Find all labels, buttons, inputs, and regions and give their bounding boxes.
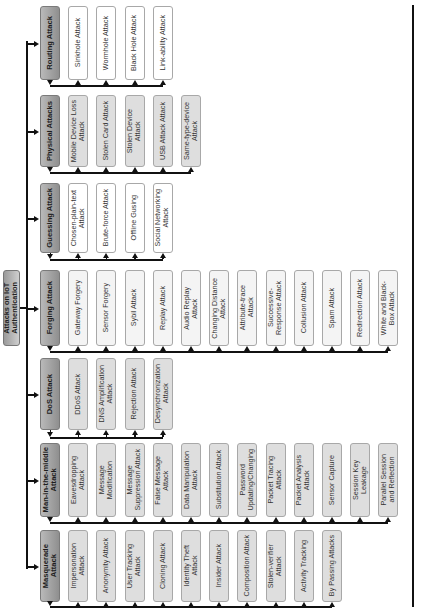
arrow-up-icon xyxy=(329,602,335,607)
arrow-up-icon xyxy=(273,346,279,351)
attack-node: User Tracking Attack xyxy=(125,530,145,602)
category-header: Physical Attacks xyxy=(40,95,60,167)
arrow-up-icon xyxy=(75,253,81,258)
attack-node: Black Hole Attack xyxy=(125,6,145,80)
attack-node-label: Brute-force Attack xyxy=(102,189,110,246)
attack-node-label: DNS Amplification Attack xyxy=(98,365,115,423)
attack-node-label: Anonymity Attack xyxy=(102,538,110,593)
arrow-up-icon xyxy=(132,602,138,607)
attack-node: DNS Amplification Attack xyxy=(96,358,116,430)
arrow-up-icon xyxy=(385,517,391,522)
arrow-right-icon xyxy=(34,129,39,135)
attack-node: DDoS Attack xyxy=(68,358,88,430)
attack-node: Composition Attack xyxy=(237,530,257,602)
attack-node: By Passing Attacks xyxy=(322,530,342,602)
category-header: Forging Attack xyxy=(40,270,60,346)
attack-node-label: Stolen Card Attack xyxy=(102,101,110,161)
attack-node-label: Packet Tracing Attack xyxy=(267,456,284,504)
arrow-up-icon xyxy=(273,517,279,522)
attack-node-label: Session Key Leakage xyxy=(352,460,369,500)
arrow-right-icon xyxy=(34,478,39,484)
attack-node: Message Suppression Attack xyxy=(125,443,145,517)
arrow-up-icon xyxy=(244,602,250,607)
attack-node-label: Social Networking Attack xyxy=(154,189,171,247)
arrow-up-icon xyxy=(132,346,138,351)
arrow-up-icon xyxy=(188,167,194,172)
attack-node: Anonymity Attack xyxy=(96,530,116,602)
arrow-up-icon xyxy=(75,167,81,172)
arrow-up-icon xyxy=(103,602,109,607)
arrow-up-icon xyxy=(357,346,363,351)
bus-line xyxy=(50,172,191,174)
category-header-label: Masquerade Attack xyxy=(42,544,59,588)
arrow-up-icon xyxy=(103,430,109,435)
attack-node: Data Manipulation Attack xyxy=(181,443,201,517)
attack-node: Successive- Response Attack xyxy=(266,270,286,346)
category-header-label: Physical Attacks xyxy=(46,101,54,161)
attack-node: Audio Replay Attack xyxy=(181,270,201,346)
attack-node: Same-type-device Attack xyxy=(181,95,201,167)
attack-node-label: Offline Gusing xyxy=(130,195,138,240)
attack-node-label: Data Manipulation Attack xyxy=(183,451,200,509)
attack-node: USB Attack Attack xyxy=(153,95,173,167)
arrow-up-icon xyxy=(160,430,166,435)
attack-node-label: Password Updating/Changing xyxy=(239,449,256,511)
attack-node: Link-ability Attack xyxy=(153,6,173,80)
arrow-up-icon xyxy=(75,517,81,522)
attack-node-label: Composition Attack xyxy=(243,535,251,597)
attack-node: Packet Analysis Attack xyxy=(294,443,314,517)
attack-node: Eavesdropping Attack xyxy=(68,443,88,517)
arrow-up-icon xyxy=(103,80,109,85)
attack-node-label: Packet Analysis Attack xyxy=(295,455,312,505)
arrow-up-icon xyxy=(75,80,81,85)
attack-node-label: Collusion Attack xyxy=(300,282,308,333)
attack-node: Sybil Attack xyxy=(125,270,145,346)
attack-node: Session Key Leakage xyxy=(350,443,370,517)
attack-node-label: Successive- Response Attack xyxy=(267,281,284,335)
attack-node: Replay Attack xyxy=(153,270,173,346)
arrow-up-icon xyxy=(244,346,250,351)
attack-node: Stolen-verifier Attack xyxy=(266,530,286,602)
attack-node: Sensor Capture xyxy=(322,443,342,517)
attack-node: Mobile Device Loss Attack xyxy=(68,95,88,167)
attack-node: Password Updating/Changing xyxy=(237,443,257,517)
arrow-up-icon xyxy=(132,517,138,522)
attack-node: Message Modification xyxy=(96,443,116,517)
arrow-right-icon xyxy=(34,306,39,312)
attack-node: Redirection Attack xyxy=(350,270,370,346)
arrow-up-icon xyxy=(103,346,109,351)
arrow-up-icon xyxy=(103,517,109,522)
trunk-line xyxy=(26,41,28,569)
attack-node: Changing Distance Attack xyxy=(209,270,229,346)
attack-node: Identity Theft Attack xyxy=(181,530,201,602)
attack-node-label: Sybil Attack xyxy=(130,289,138,326)
right-border-line xyxy=(412,5,414,607)
attack-node-label: Spam Attack xyxy=(328,288,336,328)
attack-node-label: Message Modification xyxy=(98,461,115,499)
attack-node: Attribute-trace Attack xyxy=(237,270,257,346)
root-node: Attacks on IoT Authentication xyxy=(3,270,20,346)
arrow-up-icon xyxy=(385,346,391,351)
bus-line xyxy=(50,522,388,524)
attack-node-label: Impersonation Attack xyxy=(70,543,87,589)
attack-node-label: Black Hole Attack xyxy=(130,15,138,71)
arrow-up-icon xyxy=(132,253,138,258)
attack-node: Rejection Attack xyxy=(125,358,145,430)
attack-node-label: Rejection Attack xyxy=(130,368,138,420)
arrow-up-icon xyxy=(160,602,166,607)
attack-node: Stolen Card Attack xyxy=(96,95,116,167)
arrow-up-icon xyxy=(188,346,194,351)
attack-node-label: Stolen-verifier Attack xyxy=(267,544,284,588)
attack-node: Substitution Attack xyxy=(209,443,229,517)
attack-node: Sensor Forgery xyxy=(96,270,116,346)
attack-node: Spam Attack xyxy=(322,270,342,346)
attack-node-label: Audio Replay Attack xyxy=(183,287,200,330)
bus-line xyxy=(50,85,163,87)
attack-node-label: Same-type-device Attack xyxy=(183,102,200,160)
attack-node-label: Insider Attack xyxy=(215,544,223,587)
category-header: Guessing Attack xyxy=(40,183,60,253)
arrow-up-icon xyxy=(132,167,138,172)
attack-node: Offline Gusing xyxy=(125,183,145,253)
attack-node-label: Sinkhole Attack xyxy=(74,18,82,67)
attack-node-label: USB Attack Attack xyxy=(159,102,167,160)
